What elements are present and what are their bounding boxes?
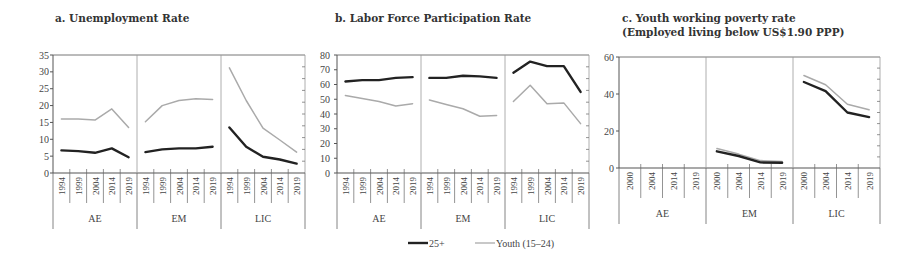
- y-tick-label: 20: [604, 126, 614, 137]
- youth-line-ae: [61, 109, 128, 128]
- x-tick-label: 2014: [275, 177, 285, 196]
- panel-subtitle: (Employed living below US$1.90 PPP): [622, 26, 845, 38]
- group-label-em: EM: [456, 213, 471, 224]
- x-tick-label: 2014: [756, 172, 766, 191]
- x-tick-label: 2004: [647, 172, 657, 191]
- x-tick-label: 2004: [259, 177, 269, 196]
- x-tick-label: 2019: [865, 172, 875, 191]
- y-tick-label: 40: [320, 109, 330, 120]
- y-tick-label: 0: [325, 168, 330, 179]
- panel-title: a. Unemployment Rate: [55, 12, 190, 24]
- x-tick-label: 2019: [292, 177, 302, 196]
- group-label-lic: LIC: [255, 213, 271, 224]
- x-tick-label: 2004: [821, 172, 831, 191]
- y-tick-label: 30: [39, 66, 49, 77]
- x-tick-label: 2004: [375, 177, 385, 196]
- x-tick-label: 2014: [191, 177, 201, 196]
- x-tick-label: 2004: [543, 177, 553, 196]
- y-tick-label: 0: [44, 168, 49, 179]
- y-tick-label: 40: [604, 89, 614, 100]
- youth-line-ae: [345, 96, 412, 106]
- youth-line-lic: [804, 76, 869, 110]
- x-tick-label: 2014: [843, 172, 853, 191]
- x-tick-label: 2019: [576, 177, 586, 196]
- x-tick-label: 1999: [74, 177, 84, 196]
- x-tick-label: 2014: [107, 177, 117, 196]
- adult-line-em: [429, 76, 496, 78]
- chart-figure: a. Unemployment Rate05101520253035199419…: [0, 0, 911, 262]
- x-tick-label: 1994: [425, 177, 435, 196]
- x-tick-label: 1994: [225, 177, 235, 196]
- y-tick-label: 60: [604, 52, 614, 63]
- x-tick-label: 1994: [57, 177, 67, 196]
- y-tick-label: 20: [39, 100, 49, 111]
- group-label-ae: AE: [372, 213, 385, 224]
- x-tick-label: 1999: [526, 177, 536, 196]
- y-tick-label: 5: [44, 151, 49, 162]
- group-label-ae: AE: [656, 208, 669, 219]
- x-tick-label: 2000: [712, 172, 722, 191]
- legend-label-adult: 25+: [429, 238, 445, 249]
- group-label-ae: AE: [88, 213, 101, 224]
- y-tick-label: 50: [320, 94, 330, 105]
- group-label-em: EM: [172, 213, 187, 224]
- y-tick-label: 60: [320, 79, 330, 90]
- x-tick-label: 2004: [459, 177, 469, 196]
- youth-line-lic: [513, 85, 580, 123]
- chart-panel-b: b. Labor Force Participation Rate0102030…: [320, 12, 589, 229]
- x-tick-label: 1999: [442, 177, 452, 196]
- x-tick-label: 2019: [124, 177, 134, 196]
- x-tick-label: 2014: [391, 177, 401, 196]
- x-tick-label: 2004: [91, 177, 101, 196]
- x-tick-label: 1994: [341, 177, 351, 196]
- x-tick-label: 2019: [408, 177, 418, 196]
- group-label-lic: LIC: [539, 213, 555, 224]
- x-tick-label: 2004: [734, 172, 744, 191]
- x-tick-label: 2019: [492, 177, 502, 196]
- x-tick-label: 2000: [799, 172, 809, 191]
- adult-line-em: [145, 147, 212, 152]
- x-tick-label: 1999: [358, 177, 368, 196]
- y-tick-label: 0: [609, 163, 614, 174]
- panel-title: c. Youth working poverty rate: [622, 12, 796, 24]
- x-tick-label: 2014: [475, 177, 485, 196]
- adult-line-lic: [513, 62, 580, 92]
- y-tick-label: 10: [320, 153, 330, 164]
- y-tick-label: 25: [39, 83, 49, 94]
- x-tick-label: 1999: [158, 177, 168, 196]
- x-tick-label: 2019: [778, 172, 788, 191]
- legend: 25+Youth (15–24): [408, 238, 554, 250]
- x-tick-label: 2014: [669, 172, 679, 191]
- youth-line-em: [429, 100, 496, 116]
- y-tick-label: 10: [39, 134, 49, 145]
- x-tick-label: 2014: [559, 177, 569, 196]
- adult-line-ae: [61, 148, 128, 157]
- group-label-em: EM: [742, 208, 757, 219]
- adult-line-lic: [804, 82, 869, 117]
- adult-line-ae: [345, 77, 412, 81]
- x-tick-label: 2000: [625, 172, 635, 191]
- y-tick-label: 70: [320, 64, 330, 75]
- y-tick-label: 30: [320, 123, 330, 134]
- y-tick-label: 35: [39, 50, 49, 61]
- y-tick-label: 15: [39, 117, 49, 128]
- y-tick-label: 80: [320, 50, 330, 61]
- legend-label-youth: Youth (15–24): [496, 238, 554, 250]
- panel-title: b. Labor Force Participation Rate: [335, 12, 532, 24]
- x-tick-label: 1999: [242, 177, 252, 196]
- youth-line-em: [145, 99, 212, 122]
- group-label-lic: LIC: [828, 208, 844, 219]
- y-tick-label: 20: [320, 138, 330, 149]
- x-tick-label: 1994: [141, 177, 151, 196]
- x-tick-label: 2004: [175, 177, 185, 196]
- x-tick-label: 2019: [208, 177, 218, 196]
- x-tick-label: 1994: [509, 177, 519, 196]
- chart-panel-c: c. Youth working poverty rate(Employed l…: [604, 12, 880, 224]
- x-tick-label: 2019: [691, 172, 701, 191]
- chart-panel-a: a. Unemployment Rate05101520253035199419…: [39, 12, 305, 229]
